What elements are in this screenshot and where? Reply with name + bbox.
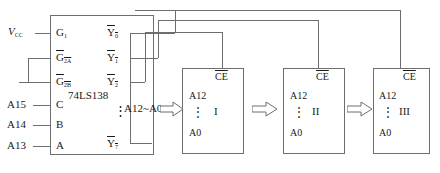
decoder-pin-y1: Y1 — [107, 52, 118, 63]
vcc-label: VCC — [8, 26, 23, 37]
wire-y1-riser — [158, 20, 159, 58]
wire-y2-top-rail — [145, 32, 222, 33]
wire-y1-top-rail — [158, 20, 318, 21]
wire-a15-to-c — [33, 105, 50, 106]
signal-label-a13: A13 — [7, 140, 26, 151]
wire-y7-stub — [130, 143, 152, 144]
decoder-pin-y7: Y7 — [107, 138, 118, 149]
memory-block-3-addr-ellipsis: ⋮ — [382, 106, 394, 118]
memory-block-2-addr-ellipsis: ⋮ — [293, 106, 305, 118]
memory-block-2-addr-bottom: A0 — [290, 128, 302, 138]
wire-a13-to-a — [33, 146, 50, 147]
decoder-pin-g2b: G2B — [56, 76, 71, 87]
wire-y2-horizontal — [130, 82, 145, 83]
memory-block-2-ce-pin: CE — [316, 72, 329, 82]
wire-ground-trunk — [28, 58, 29, 82]
memory-block-3-ce-pin: CE — [403, 72, 416, 82]
memory-block-1-name: I — [214, 106, 218, 117]
memory-block-1-ce-pin: CE — [215, 72, 228, 82]
memory-block-1-addr-top: A12 — [189, 91, 206, 101]
decoder-pin-g2a-sub: 2A — [64, 58, 71, 64]
decoder-pin-y0: Y0 — [107, 27, 118, 38]
wire-vcc-to-g1 — [35, 33, 50, 34]
wire-y2-riser — [145, 32, 146, 82]
memory-block-3-addr-top: A12 — [379, 91, 396, 101]
memory-block-1-addr-bottom: A0 — [189, 128, 201, 138]
decoder-pin-g2a-text: G — [56, 51, 64, 63]
wire-y0-riser — [175, 10, 176, 33]
decoder-pin-y2-sub: 2 — [115, 82, 118, 88]
decoder-pin-y2: Y2 — [107, 76, 118, 87]
decoder-pin-y0-sub: 0 — [115, 33, 118, 39]
memory-block-1-addr-ellipsis: ⋮ — [192, 106, 204, 118]
address-bus-label: A12~A0 — [124, 103, 162, 114]
decoder-pin-y0-text: Y — [107, 26, 115, 38]
wire-y0-top-rail — [135, 10, 400, 11]
decoder-pin-a: A — [56, 140, 64, 151]
decoder-pin-y7-text: Y — [107, 137, 115, 149]
bus-arrow-to-block2 — [252, 101, 278, 117]
decoder-pin-y1-text: Y — [107, 51, 115, 63]
decoder-pin-b: B — [56, 119, 63, 130]
vcc-subscript: CC — [15, 32, 23, 38]
ground-symbol-bar — [19, 82, 37, 83]
memory-block-3-name: III — [399, 106, 410, 117]
decoder-output-edge — [130, 33, 131, 143]
memory-block-2-name: II — [312, 106, 319, 117]
vcc-symbol: V — [8, 25, 15, 37]
decoder-pin-y7-sub: 7 — [115, 144, 118, 150]
decoder-part-number: 74LS138 — [68, 90, 108, 101]
decoder-pin-g2b-text: G — [56, 75, 64, 87]
decoder-pin-y2-text: Y — [107, 75, 115, 87]
wire-y0-horizontal — [130, 33, 175, 34]
decoder-pin-c: C — [56, 99, 63, 110]
wire-y1-horizontal — [130, 58, 158, 59]
signal-label-a15: A15 — [7, 99, 26, 110]
decoder-pin-g2b-sub: 2B — [64, 82, 71, 88]
decoder-pin-g1-text: G — [56, 26, 64, 38]
circuit-diagram-canvas: 74LS138 VCC G1 G2A G2B C B A A15 A14 A13… — [0, 0, 440, 173]
wire-y0-drop-to-block3 — [400, 10, 401, 68]
bus-arrow-to-block3 — [347, 101, 373, 117]
bus-arrow-to-block1 — [160, 101, 184, 117]
wire-y2-drop-to-block1 — [222, 32, 223, 68]
wire-g2a-stub — [28, 58, 50, 59]
decoder-pin-g2a: G2A — [56, 52, 71, 63]
decoder-pin-g1-sub: 1 — [64, 33, 67, 39]
signal-label-a14: A14 — [7, 119, 26, 130]
decoder-pin-y1-sub: 1 — [115, 58, 118, 64]
decoder-pin-g1: G1 — [56, 27, 67, 38]
wire-y1-drop-to-block2 — [318, 20, 319, 68]
memory-block-3-addr-bottom: A0 — [379, 128, 391, 138]
wire-a14-to-b — [33, 125, 50, 126]
memory-block-2-addr-top: A12 — [290, 91, 307, 101]
